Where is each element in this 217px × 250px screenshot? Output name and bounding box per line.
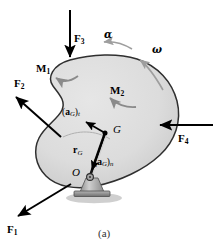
- point-label-O: O: [72, 167, 80, 178]
- alpha-arc-arrow: [104, 42, 132, 49]
- moment-label-M1: M1: [36, 63, 50, 75]
- figure-container: F3 F2 F1 F4 M1 M2 α ω G O (aG)t (aG)n rG…: [0, 0, 217, 250]
- omega-label: ω: [152, 44, 162, 55]
- force-label-F4: F4: [178, 133, 188, 145]
- centroid-point-G: [103, 131, 108, 136]
- alpha-label: α: [104, 29, 112, 40]
- support-base-plate: [74, 191, 110, 197]
- force-arrow-F2: [16, 97, 61, 137]
- accel-label-aGt: (aG)t: [62, 108, 80, 118]
- pin-joint-O-center: [89, 176, 91, 178]
- force-label-F2: F2: [14, 78, 24, 90]
- position-label-rG: rG: [73, 145, 83, 157]
- accel-label-aGn: (aG)n: [94, 158, 113, 168]
- figure-caption: (a): [98, 228, 110, 239]
- point-label-G: G: [113, 124, 121, 135]
- force-label-F3: F3: [74, 33, 84, 45]
- force-arrow-F1: [18, 184, 71, 216]
- force-label-F1: F1: [7, 224, 17, 236]
- moment-label-M2: M2: [110, 85, 124, 97]
